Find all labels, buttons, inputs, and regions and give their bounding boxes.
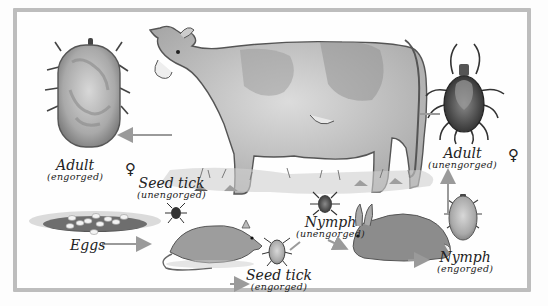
connector-seed-to-nymph <box>290 242 300 250</box>
label-seed-tick-engorged: Seed tick (engorged) <box>246 268 312 292</box>
label-nymph-engorged: Nymph (engorged) <box>437 250 493 274</box>
female-symbol-icon: ♀ <box>125 162 136 177</box>
label-nymph-unengorged: Nymph (unengorged) <box>296 215 365 239</box>
rabbit-host-illustration <box>353 204 450 261</box>
label-seed-tick-unengorged: Seed tick (unengorged) <box>137 176 206 200</box>
eggs-cluster-icon <box>29 211 161 235</box>
engorged-adult-tick-icon <box>45 38 130 147</box>
cow-host-illustration <box>150 26 433 194</box>
arrow-nymph-to-rabbit <box>328 240 345 248</box>
label-adult-unengorged: Adult (unengorged) ♀ <box>428 146 497 170</box>
label-eggs: Eggs <box>70 238 105 252</box>
unengorged-adult-tick-icon <box>426 44 504 144</box>
nymph-engorged-icon <box>444 194 482 240</box>
seed-tick-unengorged-icon <box>165 203 187 223</box>
seed-tick-engorged-icon <box>262 238 292 266</box>
mouse-host-illustration <box>163 220 262 270</box>
nymph-unengorged-icon <box>310 192 340 215</box>
label-adult-engorged: Adult (engorged) ♀ <box>47 158 103 182</box>
female-symbol-icon: ♀ <box>508 148 519 163</box>
